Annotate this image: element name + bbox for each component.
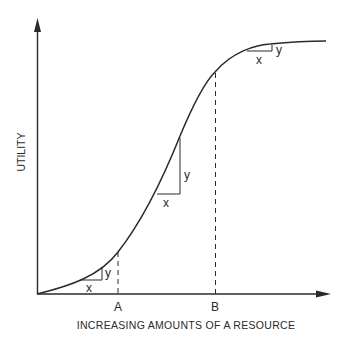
x-axis-label: INCREASING AMOUNTS OF A RESOURCE <box>77 319 295 331</box>
middle-run-label: x <box>163 196 169 210</box>
y-axis-arrow-icon <box>34 18 41 32</box>
marker-a-label: A <box>114 300 122 314</box>
x-axis <box>37 291 331 298</box>
upper-run-label: x <box>256 53 262 67</box>
lower-rise-label: y <box>105 266 111 280</box>
middle-rise-label: y <box>184 168 190 182</box>
utility-diagram: x y x y x y A B UTILITY INCREASING AMOUN… <box>0 0 347 344</box>
x-axis-arrow-icon <box>316 291 331 298</box>
lower-run-label: x <box>86 281 92 295</box>
marker-b-label: B <box>211 300 219 314</box>
utility-curve <box>37 41 326 294</box>
y-axis <box>34 18 41 294</box>
y-axis-label: UTILITY <box>15 132 27 171</box>
upper-rise-label: y <box>276 43 282 57</box>
slope-triangle-lower <box>80 267 102 280</box>
